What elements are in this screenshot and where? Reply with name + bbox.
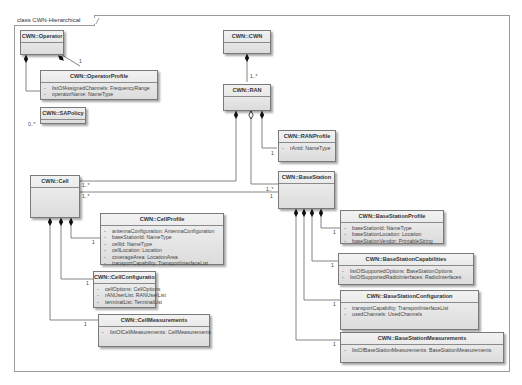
attribute: -listOfSupportedRadioInterfaces: RadioIn… — [342, 274, 470, 280]
class-name: CWN::RANProfile — [279, 131, 335, 143]
class-cell-profile[interactable]: CWN::CellProfile -antennaConfiguration: … — [100, 213, 224, 265]
class-cell-configuration[interactable]: CWN::CellConfiguration -cellOptions: Cel… — [93, 271, 156, 308]
class-name: CWN::CellConfiguration — [94, 272, 155, 284]
multiplicity-ran-profile: 1 — [271, 150, 274, 156]
multiplicity-bs-configuration: 1 — [333, 301, 336, 307]
multiplicity-sa-policy: 0..* — [28, 121, 36, 127]
class-name: CWN::BaseStationConfiguration — [341, 291, 478, 303]
class-name: CWN::SAPolicy — [41, 108, 85, 120]
multiplicity-ran-base-station: 1..* — [266, 186, 274, 192]
attribute: -usedChannels: UsedChannels — [344, 311, 475, 317]
attribute: -operatorName: NameType — [44, 91, 154, 97]
class-name: CWN::CellProfile — [101, 214, 223, 226]
class-name: CWN::BaseStation — [279, 172, 334, 184]
attribute-list: -listOfSupportedOptions: BaseStationOpti… — [339, 266, 473, 283]
class-name: CWN::Cell — [31, 176, 79, 188]
class-ran[interactable]: CWN::RAN — [223, 84, 271, 111]
class-operator-profile[interactable]: CWN::OperatorProfile -listOfAssignedChan… — [40, 70, 158, 100]
multiplicity-bs-profile: 1 — [333, 229, 336, 235]
attribute: -listOfCellMeasurements: CellMeasurement… — [102, 329, 206, 335]
class-base-station-configuration[interactable]: CWN::BaseStationConfiguration -transport… — [340, 290, 479, 330]
class-name: CWN::Operator — [21, 31, 63, 43]
multiplicity-base-station-cell: 1 — [270, 193, 273, 199]
class-cell[interactable]: CWN::Cell — [30, 175, 80, 218]
attribute: -listOfBaseStationMeasurements: BaseStat… — [344, 347, 500, 353]
class-name: CWN::BaseStationCapabilities — [339, 254, 473, 266]
attribute-list: -antennaConfiguration: AntennaConfigurat… — [101, 226, 223, 268]
class-ran-profile[interactable]: CWN::RANProfile -rAntd: NameType — [278, 130, 336, 162]
attribute: -transportCapability: TransportInterface… — [104, 260, 220, 266]
class-name: CWN::CWN — [224, 31, 270, 43]
attribute-list: -baseStationId: NameType -baseStationLoc… — [341, 223, 443, 246]
class-base-station-capabilities[interactable]: CWN::BaseStationCapabilities -listOfSupp… — [338, 253, 474, 285]
attribute: -terminalList: TerminalList — [97, 299, 152, 305]
attribute-list: -listOfBaseStationMeasurements: BaseStat… — [341, 345, 503, 355]
multiplicity-cell-configuration: 1 — [86, 280, 89, 286]
class-operator[interactable]: CWN::Operator — [20, 30, 64, 55]
attribute: -rAntd: NameType — [282, 145, 332, 151]
class-name: CWN::BaseStationProfile — [341, 211, 443, 223]
class-sa-policy[interactable]: CWN::SAPolicy — [40, 107, 86, 124]
class-name: CWN::OperatorProfile — [41, 71, 157, 83]
class-cwn[interactable]: CWN::CWN — [223, 30, 271, 54]
multiplicity-cell-base-station: 1..* — [82, 193, 90, 199]
multiplicity-cwn-ran: 1..* — [250, 73, 258, 79]
class-base-station[interactable]: CWN::BaseStation — [278, 171, 335, 209]
multiplicity-bs-capabilities: 1 — [331, 262, 334, 268]
multiplicity-cell-measurements: 1 — [84, 321, 87, 327]
attribute-list: -listOfAssignedChannels: FrequencyRange … — [41, 83, 157, 100]
multiplicity-cell-ran: 1..* — [82, 182, 90, 188]
attribute-list: -rAntd: NameType — [279, 143, 335, 153]
multiplicity-operator-profile: 1 — [79, 58, 82, 64]
attribute-list: -cellOptions: CellOptions -rANUserList: … — [94, 284, 155, 307]
attribute-list: -transportCapability: TransportInterface… — [341, 303, 478, 320]
multiplicity-cell-profile: 1 — [92, 239, 95, 245]
attribute: -baseStationVendor: PrintableString — [344, 238, 440, 244]
class-name: CWN::CellMeasurements — [99, 315, 209, 327]
class-name: CWN::RAN — [224, 85, 270, 97]
class-base-station-measurements[interactable]: CWN::BaseStationMeasurements -listOfBase… — [340, 332, 504, 363]
class-name: CWN::BaseStationMeasurements — [341, 333, 503, 345]
class-cell-measurements[interactable]: CWN::CellMeasurements -listOfCellMeasure… — [98, 314, 210, 347]
attribute-list: -listOfCellMeasurements: CellMeasurement… — [99, 327, 209, 337]
multiplicity-bs-measurements: 1 — [333, 341, 336, 347]
class-base-station-profile[interactable]: CWN::BaseStationProfile -baseStationId: … — [340, 210, 444, 244]
